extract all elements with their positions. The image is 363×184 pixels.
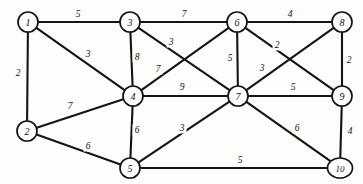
- graph-node-4[interactable]: 4: [123, 86, 143, 106]
- graph-edge-7-10: [246, 101, 331, 161]
- edge-weight-2-5: 6: [86, 141, 91, 151]
- graph-node-label-5: 5: [128, 163, 133, 174]
- graph-node-label-2: 2: [25, 126, 30, 137]
- graph-node-label-3: 3: [127, 17, 133, 28]
- edge-weight-8-9: 2: [347, 55, 352, 65]
- edge-weight-4-7: 9: [180, 82, 185, 92]
- edge-weight-7-9: 5: [291, 82, 296, 92]
- edge-weight-5-7: 3: [179, 123, 185, 133]
- graph-diagram-canvas: 12345678910 523783797663545235264: [0, 0, 363, 184]
- edge-weight-1-2: 2: [16, 68, 21, 78]
- edge-weight-6-8: 4: [288, 9, 293, 19]
- graph-node-label-1: 1: [26, 17, 31, 28]
- graph-node-label-9: 9: [340, 91, 345, 102]
- edge-weight-3-4: 8: [135, 52, 140, 62]
- edge-weight-1-3: 5: [76, 9, 81, 19]
- edge-weight-7-10: 6: [295, 123, 300, 133]
- edge-weight-9-10: 4: [348, 126, 353, 136]
- edge-weight-1-4: 3: [85, 49, 91, 59]
- edge-weight-7-8: 3: [259, 63, 265, 73]
- graph-node-2[interactable]: 2: [17, 121, 37, 141]
- graph-edge-4-5: [130, 105, 132, 158]
- graph-edge-3-4: [130, 31, 132, 86]
- graph-node-6[interactable]: 6: [227, 12, 247, 32]
- graph-node-3[interactable]: 3: [120, 12, 140, 32]
- graph-node-8[interactable]: 8: [332, 12, 352, 32]
- graph-edge-2-4: [36, 99, 124, 128]
- graph-svg: 12345678910 523783797663545235264: [0, 0, 363, 184]
- edge-weight-3-7: 3: [168, 37, 174, 47]
- graph-node-label-10: 10: [336, 164, 346, 174]
- graph-node-label-6: 6: [235, 17, 240, 28]
- graph-node-7[interactable]: 7: [228, 86, 248, 106]
- graph-edge-9-10: [340, 105, 341, 158]
- graph-edge-1-4: [36, 27, 126, 90]
- graph-node-9[interactable]: 9: [332, 86, 352, 106]
- graph-node-1[interactable]: 1: [18, 12, 38, 32]
- edge-weight-6-7: 5: [228, 53, 233, 63]
- graph-node-label-4: 4: [131, 91, 136, 102]
- graph-edge-1-2: [27, 31, 28, 121]
- graph-node-label-8: 8: [340, 17, 345, 28]
- edge-weight-6-9: 2: [275, 40, 280, 50]
- edge-layer: [27, 22, 342, 168]
- graph-edge-6-7: [237, 31, 238, 86]
- edge-weight-5-10: 5: [238, 155, 243, 165]
- graph-edge-2-5: [36, 134, 121, 165]
- graph-node-5[interactable]: 5: [120, 158, 140, 178]
- graph-node-10[interactable]: 10: [328, 158, 353, 178]
- edge-weight-4-5: 6: [135, 125, 140, 135]
